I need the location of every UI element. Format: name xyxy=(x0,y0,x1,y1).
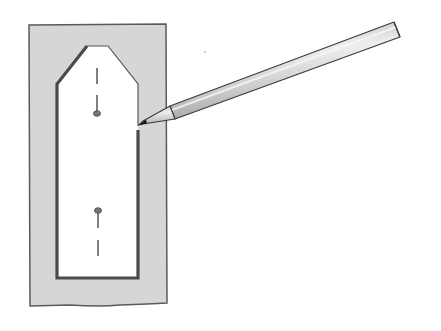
speck xyxy=(204,51,206,53)
pattern-tracing-illustration xyxy=(0,0,441,331)
pencil-highlight xyxy=(172,27,396,110)
pencil-body xyxy=(170,22,400,119)
pencil xyxy=(139,22,400,125)
